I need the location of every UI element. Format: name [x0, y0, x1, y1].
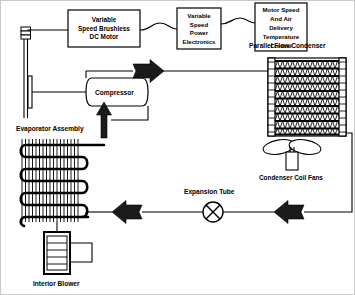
- expansion-tube-label: Expansion Tube: [184, 188, 235, 196]
- condenser[interactable]: [268, 58, 346, 136]
- condenser-coil-fans[interactable]: Condenser Coil Fans: [259, 137, 323, 181]
- motor-box-line-3: DC Motor: [90, 33, 119, 40]
- evaporator[interactable]: [21, 139, 104, 226]
- expansion-tube[interactable]: Expansion Tube: [184, 188, 235, 222]
- interior-blower-label: Interior Blower: [33, 280, 80, 287]
- power-electronics-box[interactable]: Variable Speed Power Electronics: [177, 8, 221, 49]
- power-electronics-line-2: Speed: [190, 21, 209, 28]
- link-power-electronics-to-control: [221, 18, 255, 24]
- compressor[interactable]: Compressor: [86, 78, 148, 106]
- evaporator-serpentine-tube: [21, 145, 104, 226]
- control-box-line-4: Temperature: [263, 33, 300, 40]
- power-electronics-line-1: Variable: [187, 12, 211, 19]
- power-electronics-line-4: Electronics: [183, 38, 216, 45]
- diagram-canvas: Variable Speed Brushless DC Motor Variab…: [0, 0, 355, 295]
- power-electronics-line-3: Power: [190, 29, 209, 36]
- condenser-outlet-arrow: [274, 201, 304, 224]
- interior-blower-wheel: [47, 236, 67, 270]
- shaft-coupling-mid: [21, 31, 31, 35]
- shaft-pulley-plate: [28, 76, 32, 108]
- evaporator-inlet-arrow: [112, 201, 142, 224]
- shaft-coupling-bottom: [21, 35, 31, 39]
- suction-line-top: [111, 106, 148, 120]
- control-box-line-2: And Air: [270, 15, 292, 22]
- interior-blower-duct: [70, 243, 92, 262]
- interior-blower[interactable]: Interior Blower: [33, 222, 92, 287]
- suction-arrow-up: [97, 102, 112, 138]
- hvac-system-diagram: Variable Speed Brushless DC Motor Variab…: [0, 0, 355, 295]
- link-motor-to-power-electronics: [140, 23, 177, 30]
- condenser-label: Parallel Flow Condenser: [249, 42, 326, 49]
- motor-box-line-2: Speed Brushless: [78, 25, 130, 33]
- control-box-line-3: Delivery: [269, 24, 293, 31]
- motor-box[interactable]: Variable Speed Brushless DC Motor: [68, 10, 140, 47]
- fan-motor-housing: [286, 152, 298, 170]
- condenser-fans-label: Condenser Coil Fans: [259, 174, 323, 181]
- motor-box-line-1: Variable: [92, 16, 117, 23]
- evaporator-label: Evaporator Assembly: [16, 125, 84, 133]
- compressor-label: Compressor: [95, 89, 134, 97]
- control-box-line-1: Motor Speed: [263, 6, 300, 13]
